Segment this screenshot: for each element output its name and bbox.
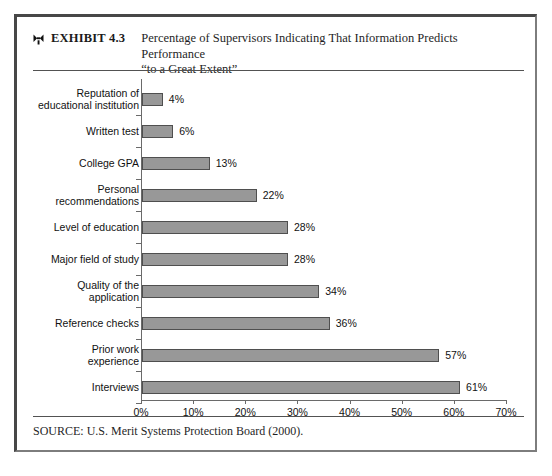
bar-category-label: College GPA <box>7 157 139 170</box>
bar-category-label-line: experience <box>7 355 139 368</box>
x-axis-tick <box>297 400 298 404</box>
bar-row: Level of education28% <box>17 211 535 243</box>
bar-category-label-line: educational institution <box>7 99 139 112</box>
bar-value-label: 28% <box>294 221 315 233</box>
bar-category-label: Interviews <box>7 381 139 394</box>
bar-row: Prior workexperience57% <box>17 339 535 371</box>
bar-category-label-line: Interviews <box>7 381 139 394</box>
bar-value-label: 34% <box>325 285 346 297</box>
exhibit-number-label: EXHIBIT 4.3 <box>51 31 125 46</box>
bar-track: 34% <box>142 275 535 307</box>
exhibit-title-line-1: Percentage of Supervisors Indicating Tha… <box>141 31 519 62</box>
bar-row: Personalrecommendations22% <box>17 179 535 211</box>
bowtie-ornament-icon <box>33 34 44 45</box>
bar <box>142 349 439 362</box>
bar-category-label-line: Personal <box>7 183 139 196</box>
bar <box>142 189 257 202</box>
source-note: SOURCE: U.S. Merit Systems Protection Bo… <box>33 424 303 439</box>
bar-category-label-line: Reference checks <box>7 317 139 330</box>
bar-category-label-line: Level of education <box>7 221 139 234</box>
bar-row: Written test6% <box>17 115 535 147</box>
bar-category-label-line: application <box>7 291 139 304</box>
bar-value-label: 36% <box>336 317 357 329</box>
x-axis-tick <box>454 400 455 404</box>
bar-track: 36% <box>142 307 535 339</box>
bar-category-label: Level of education <box>7 221 139 234</box>
bar-track: 57% <box>142 339 535 371</box>
x-axis-tick <box>141 400 142 404</box>
y-axis-tick <box>136 147 141 148</box>
source-divider <box>33 416 524 417</box>
y-axis-tick <box>136 243 141 244</box>
bar-track: 61% <box>142 371 535 403</box>
x-axis-tick <box>350 400 351 404</box>
bar-value-label: 4% <box>169 93 184 105</box>
y-axis-tick <box>136 275 141 276</box>
y-axis-tick <box>136 403 141 404</box>
bar <box>142 253 288 266</box>
bar <box>142 93 163 106</box>
bar <box>142 381 460 394</box>
x-axis-tick <box>402 400 403 404</box>
bar <box>142 285 319 298</box>
bar-category-label-line: Reputation of <box>7 87 139 100</box>
bar-row: Major field of study28% <box>17 243 535 275</box>
bar-row: College GPA13% <box>17 147 535 179</box>
bar-track: 28% <box>142 243 535 275</box>
bar-value-label: 13% <box>216 157 237 169</box>
bar-value-label: 57% <box>445 349 466 361</box>
bar-category-label: Personalrecommendations <box>7 183 139 208</box>
bar-row: Quality of theapplication34% <box>17 275 535 307</box>
bar-track: 4% <box>142 83 535 115</box>
bar-track: 28% <box>142 211 535 243</box>
bar-category-label: Written test <box>7 125 139 138</box>
bar-category-label-line: Written test <box>7 125 139 138</box>
bar-category-label: Prior workexperience <box>7 343 139 368</box>
x-axis-tick <box>245 400 246 404</box>
header-divider <box>33 70 524 71</box>
bar-category-label-line: College GPA <box>7 157 139 170</box>
bar-category-label-line: Major field of study <box>7 253 139 266</box>
bar-category-label-line: Quality of the <box>7 279 139 292</box>
bar-row: Reputation ofeducational institution4% <box>17 83 535 115</box>
x-axis-tick <box>506 400 507 404</box>
bar <box>142 125 173 138</box>
y-axis-tick <box>136 307 141 308</box>
bar-chart: Reputation ofeducational institution4%Wr… <box>17 79 535 409</box>
bar-category-label-line: recommendations <box>7 195 139 208</box>
x-axis-tick <box>193 400 194 404</box>
bar-value-label: 28% <box>294 253 315 265</box>
y-axis-tick <box>136 179 141 180</box>
bar-category-label-line: Prior work <box>7 343 139 356</box>
bar-value-label: 22% <box>263 189 284 201</box>
bar <box>142 221 288 234</box>
exhibit-frame: EXHIBIT 4.3 Percentage of Supervisors In… <box>14 14 537 452</box>
bar-track: 6% <box>142 115 535 147</box>
bar-value-label: 61% <box>466 381 487 393</box>
bar-row: Interviews61% <box>17 371 535 403</box>
bar-row: Reference checks36% <box>17 307 535 339</box>
y-axis-tick <box>136 211 141 212</box>
bar-category-label: Major field of study <box>7 253 139 266</box>
bar <box>142 157 210 170</box>
bar-category-label: Reference checks <box>7 317 139 330</box>
bar <box>142 317 330 330</box>
bar-category-label: Reputation ofeducational institution <box>7 87 139 112</box>
bar-track: 22% <box>142 179 535 211</box>
y-axis-tick <box>136 115 141 116</box>
bar-category-label: Quality of theapplication <box>7 279 139 304</box>
y-axis-tick <box>136 371 141 372</box>
bar-value-label: 6% <box>179 125 194 137</box>
bar-track: 13% <box>142 147 535 179</box>
y-axis-tick <box>136 339 141 340</box>
